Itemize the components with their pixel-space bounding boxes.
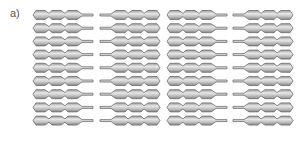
bead-chain — [33, 90, 93, 99]
bead-chain — [33, 103, 93, 112]
bead-chain — [33, 77, 93, 86]
bead-chain — [233, 77, 293, 86]
bead-chain — [233, 37, 293, 46]
bead-chain — [100, 77, 160, 86]
bead-chain — [100, 11, 160, 20]
bead-chain — [167, 103, 227, 112]
bead-chain — [33, 116, 93, 125]
bead-chain — [167, 90, 227, 99]
bead-chain — [233, 24, 293, 33]
bead-chain — [100, 50, 160, 59]
bead-chain — [167, 37, 227, 46]
bead-chain-grid — [0, 0, 308, 153]
bead-chain — [233, 11, 293, 20]
bead-chain — [33, 24, 93, 33]
bead-chain — [33, 37, 93, 46]
bead-chain — [100, 90, 160, 99]
bead-chain — [167, 24, 227, 33]
bead-chain — [233, 63, 293, 72]
bead-chain — [233, 50, 293, 59]
bead-chain — [33, 63, 93, 72]
bead-chain — [100, 116, 160, 125]
bead-chain — [100, 63, 160, 72]
bead-chain — [233, 90, 293, 99]
bead-chain — [33, 11, 93, 20]
bead-chain — [100, 103, 160, 112]
bead-chain — [100, 37, 160, 46]
bead-chain — [167, 77, 227, 86]
bead-chain — [233, 103, 293, 112]
bead-chain — [167, 11, 227, 20]
bead-chain — [100, 24, 160, 33]
bead-chain — [233, 116, 293, 125]
bead-chain — [167, 116, 227, 125]
bead-chain — [167, 63, 227, 72]
bead-chain — [33, 50, 93, 59]
chains-group — [33, 11, 293, 126]
bead-chain — [167, 50, 227, 59]
